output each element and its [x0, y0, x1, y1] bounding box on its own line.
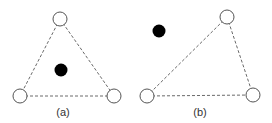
edge-b-top-right	[227, 17, 253, 95]
panel-a: (a)	[13, 12, 121, 118]
point-inside-a	[55, 64, 68, 77]
diagram-canvas: (a) (b)	[0, 0, 272, 123]
edge-b-bottom	[147, 95, 253, 96]
vertex-a-bottom-right	[107, 89, 121, 103]
vertex-a-top	[53, 12, 67, 26]
panel-b: (b)	[140, 10, 260, 118]
vertex-b-top	[220, 10, 234, 24]
vertex-b-bottom-left	[140, 89, 154, 103]
edge-a-top-left	[20, 19, 60, 96]
panel-label-a: (a)	[56, 106, 69, 118]
panel-label-b: (b)	[193, 106, 206, 118]
vertex-a-bottom-left	[13, 89, 27, 103]
point-outside-b	[153, 25, 166, 38]
vertex-b-bottom-right	[246, 88, 260, 102]
triangle-point-diagram: (a) (b)	[0, 0, 272, 123]
edge-a-top-right	[60, 19, 114, 96]
